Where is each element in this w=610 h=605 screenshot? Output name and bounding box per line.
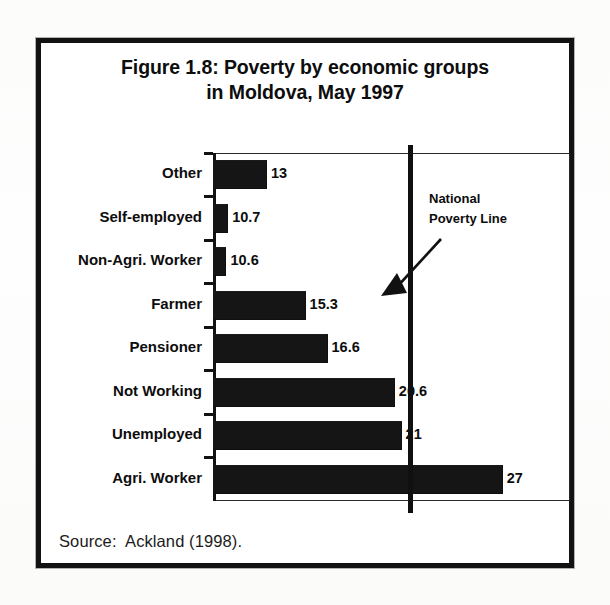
annotation-line-1: National	[429, 189, 507, 209]
annotation-line-2: Poverty Line	[429, 209, 507, 229]
y-axis-tick	[204, 152, 213, 155]
y-axis-tick	[204, 369, 213, 372]
category-label: Agri. Worker	[112, 470, 202, 486]
category-label: Non-Agri. Worker	[78, 252, 202, 268]
category-label: Not Working	[113, 383, 202, 399]
source-note: Source: Ackland (1998).	[59, 532, 242, 551]
category-label: Farmer	[151, 296, 202, 312]
arrow-down-left-icon	[377, 233, 447, 308]
y-axis-tick	[204, 195, 213, 198]
category-label: Pensioner	[129, 339, 202, 355]
screenshot-canvas: Figure 1.8: Poverty by economic groups i…	[0, 0, 610, 605]
national-poverty-line-annotation: National Poverty Line	[429, 189, 507, 229]
figure-frame: Figure 1.8: Poverty by economic groups i…	[36, 38, 574, 568]
y-axis-tick	[204, 239, 213, 242]
chart-title-line-1: Figure 1.8: Poverty by economic groups	[41, 55, 569, 80]
national-poverty-line-marker	[408, 145, 413, 513]
y-axis-tick	[204, 282, 213, 285]
y-axis-tick	[204, 326, 213, 329]
category-label: Self-employed	[99, 209, 202, 225]
category-label: Unemployed	[112, 426, 202, 442]
poverty-line-layer	[213, 153, 570, 501]
chart-title-line-2: in Moldova, May 1997	[41, 80, 569, 105]
chart-title: Figure 1.8: Poverty by economic groups i…	[41, 55, 569, 105]
category-label: Other	[162, 165, 202, 181]
y-axis-tick	[204, 413, 213, 416]
y-axis-tick	[204, 456, 213, 459]
